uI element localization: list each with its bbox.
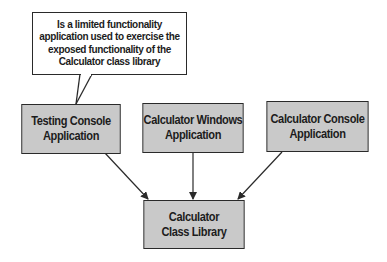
node-label-line2: Application bbox=[144, 128, 243, 143]
node-label-line1: Calculator bbox=[161, 210, 226, 225]
callout-tail-join bbox=[81, 73, 91, 76]
node-label-line1: Calculator Console bbox=[271, 112, 365, 127]
node-label-line2: Application bbox=[31, 129, 111, 144]
node-testing-console-application: Testing Console Application bbox=[21, 104, 120, 154]
callout-text: Is a limited functionality application u… bbox=[37, 19, 182, 69]
node-calculator-class-library: Calculator Class Library bbox=[143, 200, 244, 249]
edge-console-to-library bbox=[238, 152, 282, 199]
node-calculator-windows-application: Calculator Windows Application bbox=[142, 103, 243, 153]
node-label-line1: Calculator Windows bbox=[144, 113, 243, 128]
node-label-line2: Class Library bbox=[161, 225, 226, 240]
callout-note: Is a limited functionality application u… bbox=[32, 12, 187, 75]
node-calculator-console-application: Calculator Console Application bbox=[266, 101, 368, 152]
edge-testing-to-library bbox=[105, 153, 148, 199]
node-label-line1: Testing Console bbox=[31, 114, 111, 129]
node-label-line2: Application bbox=[271, 127, 365, 142]
